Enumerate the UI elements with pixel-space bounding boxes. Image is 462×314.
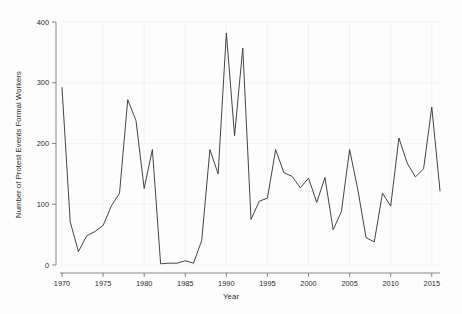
x-tick-label: 2005 [341,279,357,288]
x-tick-label: 2015 [424,279,440,288]
y-tick-label: 400 [37,18,49,27]
gridlines-group [62,22,440,265]
x-tick-label: 1975 [95,279,111,288]
x-tick-label: 2000 [300,279,316,288]
y-tick-label: 300 [37,78,49,87]
tick-labels-group: 0100200300400197019751980198519901995200… [37,18,440,288]
x-tick-label: 1990 [218,279,234,288]
chart-plot-area: 0100200300400197019751980198519901995200… [0,0,462,314]
line-chart-figure: 0100200300400197019751980198519901995200… [0,0,462,314]
y-axis-label: Number of Protest Events Formal Workers [14,45,23,245]
data-series-line [62,33,440,264]
x-tick-label: 1970 [54,279,70,288]
x-tick-label: 1995 [259,279,275,288]
x-axis-label: Year [0,292,462,301]
y-tick-label: 100 [37,200,49,209]
y-tick-label: 200 [37,139,49,148]
x-tick-label: 2010 [382,279,398,288]
x-tick-label: 1985 [177,279,193,288]
y-tick-label: 0 [45,261,49,270]
x-tick-label: 1980 [136,279,152,288]
